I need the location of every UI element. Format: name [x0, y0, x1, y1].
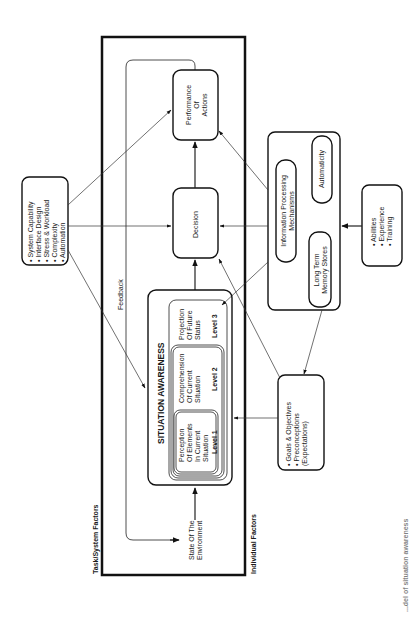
svg-text:• Automation: • Automation — [59, 222, 66, 262]
sa-title: SITUATION AWARENESS — [156, 342, 166, 444]
svg-text:• Stress & Workload: • Stress & Workload — [43, 200, 50, 262]
svg-text:Actions: Actions — [201, 93, 208, 116]
svg-text:• Experience: • Experience — [378, 206, 386, 246]
svg-text:• Goals & Objectives: • Goals & Objectives — [285, 402, 293, 466]
state-of-environment-label: State Of The Environment — [188, 520, 203, 560]
svg-text:In Current: In Current — [194, 431, 201, 462]
individual-factors-label: Individual Factors — [250, 514, 257, 574]
svg-text:• Abilities: • Abilities — [370, 217, 377, 246]
svg-text:Of Elements: Of Elements — [186, 423, 193, 462]
svg-text:(Expectations): (Expectations) — [301, 421, 309, 466]
task-system-factors-label: Task/System Factors — [92, 504, 100, 574]
svg-text:Situation: Situation — [202, 435, 209, 462]
decision-label: Decision — [192, 211, 199, 238]
situation-awareness-diagram: Task/System Factors Individual Factors F… — [0, 0, 412, 619]
svg-text:Comprehension: Comprehension — [178, 353, 186, 403]
svg-text:Of: Of — [193, 101, 200, 108]
svg-text:Level 3: Level 3 — [211, 314, 218, 338]
svg-text:Of Future: Of Future — [186, 310, 193, 340]
svg-text:• Preconceptions: • Preconceptions — [293, 413, 301, 466]
automaticity-label: Automaticity — [318, 149, 326, 188]
svg-text:Situation: Situation — [194, 376, 201, 403]
svg-text:Long Term: Long Term — [313, 253, 321, 286]
svg-text:Level 1: Level 1 — [211, 430, 218, 454]
caption: ...del of situation awareness — [402, 519, 409, 612]
svg-text:State Of The: State Of The — [188, 520, 195, 560]
feedback-label: Feedback — [117, 279, 124, 310]
svg-text:Environment: Environment — [196, 521, 203, 560]
svg-text:Projection: Projection — [178, 309, 186, 340]
svg-text:Perception: Perception — [178, 428, 186, 462]
svg-text:• Training: • Training — [386, 217, 394, 246]
svg-text:Memory Stores: Memory Stores — [321, 246, 329, 294]
svg-text:Level 2: Level 2 — [211, 367, 218, 391]
svg-text:Of Current: Of Current — [186, 370, 193, 403]
svg-text:Performance: Performance — [185, 85, 192, 125]
svg-text:Mechanisms: Mechanisms — [288, 191, 295, 231]
svg-text:• Complexity: • Complexity — [51, 222, 59, 262]
svg-text:• System Capability: • System Capability — [27, 201, 35, 262]
svg-text:• Interface Design: • Interface Design — [35, 207, 43, 262]
svg-text:Status: Status — [194, 320, 201, 340]
svg-text:Information Processing: Information Processing — [280, 175, 288, 247]
